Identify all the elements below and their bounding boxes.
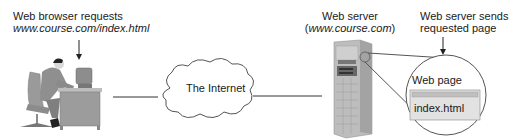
request-arrow-icon (76, 40, 82, 60)
web-server-domain-line: (www.course.com) (300, 22, 400, 34)
server-sends-line1: Web server sends (420, 10, 508, 22)
internet-label: The Internet (186, 82, 245, 94)
web-server-title: Web server (300, 10, 400, 22)
server-sends-line2: requested page (420, 22, 508, 34)
webpage-title: Web page (412, 74, 462, 86)
response-arrow-icon (440, 37, 446, 55)
browser-request-url: www.course.com/index.html (13, 22, 149, 34)
web-server-domain: www.course.com (308, 22, 391, 34)
webpage-filename: index.html (414, 102, 464, 114)
web-server-label: Web server (www.course.com) (300, 10, 400, 34)
user-at-computer-icon (20, 59, 102, 130)
server-sends-label: Web server sends requested page (420, 10, 508, 34)
webpage-titlebar (412, 92, 478, 97)
browser-request-line1: Web browser requests (13, 10, 149, 22)
browser-request-label: Web browser requests www.course.com/inde… (13, 10, 149, 34)
web-server-icon (334, 40, 372, 138)
